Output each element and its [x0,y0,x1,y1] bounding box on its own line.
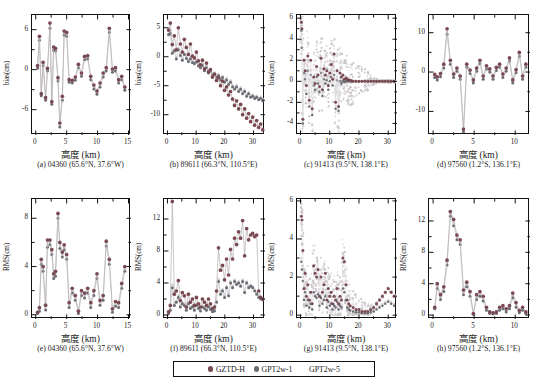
data-point [309,74,312,77]
data-point [323,78,326,81]
data-point [360,298,362,300]
data-point [323,68,325,70]
data-point [344,80,347,83]
data-point [352,95,355,98]
data-point [381,80,383,82]
data-point [221,75,223,77]
data-point [388,79,390,81]
data-point [340,309,342,311]
data-point [349,92,351,94]
data-point [342,271,344,273]
data-point [312,69,314,71]
data-point [300,25,303,28]
data-point [314,97,316,99]
data-point [331,83,333,85]
data-point [376,304,378,306]
data-point [341,261,344,264]
data-point [391,81,393,83]
data-point [227,93,231,97]
data-point [108,261,110,263]
data-point [336,85,338,87]
data-point [336,274,339,277]
x-tick-label: 30 [249,138,256,146]
data-point [311,101,313,103]
data-point [191,297,195,301]
data-point [489,69,491,71]
data-point [508,306,510,308]
data-point [300,219,302,221]
data-point [318,56,320,58]
data-point [308,310,310,312]
data-point [388,80,390,82]
data-point [67,78,71,82]
data-point [327,283,329,285]
series-gpt2w-1 [300,261,395,315]
data-point [195,296,199,300]
data-point [321,92,323,94]
data-point [304,69,307,72]
data-point [382,294,384,296]
data-point [123,89,126,92]
data-point [332,65,334,67]
data-point [321,72,323,74]
data-point [203,307,206,310]
data-point [505,309,507,311]
data-point [384,291,386,293]
series-layer-f [164,199,265,319]
data-point [340,93,342,95]
data-point [307,62,309,64]
data-point [219,84,223,88]
data-point [349,86,352,89]
data-point [193,309,196,312]
data-point [317,273,318,274]
data-point [442,290,445,293]
data-point [355,80,358,83]
data-point [303,287,306,290]
data-point [452,76,455,79]
data-point [329,304,332,307]
data-point [347,64,348,65]
data-point [320,68,322,70]
data-point [167,28,171,32]
data-point [305,70,307,72]
x-axis-label-f: 高度 (km) [163,331,264,345]
data-point [321,268,322,269]
data-point [345,62,347,64]
data-point [340,289,342,291]
data-point [337,300,340,303]
data-point [354,294,356,296]
y-tick-label: 4 [276,34,293,42]
data-point [339,66,341,68]
data-point [382,80,384,82]
data-point [491,74,495,78]
data-point [482,76,484,78]
data-point [307,66,309,68]
data-point [213,71,215,73]
data-point [350,82,352,84]
data-point [227,292,229,294]
data-point [367,80,369,82]
data-point [320,295,322,297]
data-point [347,95,349,97]
data-point [337,305,339,307]
data-point [260,296,262,298]
data-point [369,77,371,79]
data-point [345,275,347,277]
data-point [54,273,56,275]
data-point [361,304,364,307]
data-point [328,71,331,74]
data-point [344,59,346,61]
data-point [390,292,392,294]
data-point [225,286,228,289]
y-tick-label: 0 [276,310,293,318]
data-point [199,63,203,67]
data-point [219,77,221,79]
series-gpt2w-1 [433,33,527,134]
data-point [308,298,311,301]
data-point [518,55,521,58]
data-point [313,249,315,251]
data-point [349,293,351,295]
data-point [253,290,256,293]
data-point [384,303,387,306]
data-point [352,306,355,309]
